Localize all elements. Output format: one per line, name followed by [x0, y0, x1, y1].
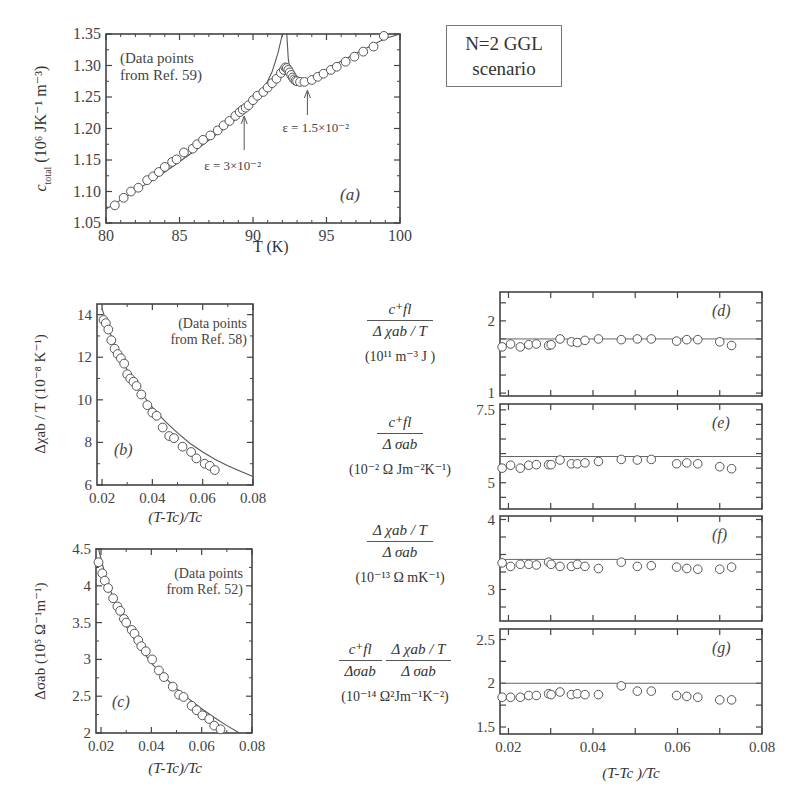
data-point	[693, 693, 702, 702]
data-point	[727, 464, 736, 473]
x-tick-label: 0.02	[88, 738, 114, 754]
y-tick-label: 1.10	[73, 183, 101, 200]
x-tick-label: 0.08	[239, 738, 265, 754]
y-tick-label: 5	[488, 475, 496, 491]
data-point	[179, 693, 188, 702]
panel-d-label: (d)	[712, 302, 731, 320]
data-point	[506, 562, 515, 571]
y-tick-label: 4.5	[72, 541, 91, 557]
y-tick-label: 1	[488, 385, 496, 401]
data-point	[556, 456, 565, 465]
epsilon-annotation-2: ε = 1.5×10⁻²	[282, 120, 349, 135]
data-point	[532, 561, 541, 570]
data-point	[516, 560, 525, 569]
data-point	[715, 338, 724, 347]
scenario-label-line1: N=2 GGL	[447, 31, 561, 56]
data-point	[594, 690, 603, 699]
data-point	[180, 148, 189, 157]
data-point	[359, 47, 368, 56]
x-tick-label: 0.04	[138, 738, 165, 754]
y-tick-label: 1.15	[73, 151, 101, 168]
svg-text:from Ref. 59): from Ref. 59)	[120, 67, 202, 84]
data-point	[594, 457, 603, 466]
data-point	[341, 57, 350, 66]
x-tick-label: 0.02	[89, 490, 115, 506]
y-tick-label: 12	[77, 349, 92, 365]
svg-text:from Ref. 52): from Ref. 52)	[166, 582, 243, 598]
data-point	[672, 459, 681, 468]
data-point	[727, 696, 736, 705]
data-point	[682, 335, 691, 344]
y-tick-label: 4	[84, 578, 92, 594]
panel-a-label: (a)	[340, 185, 360, 204]
x-tick-label: 100	[388, 227, 412, 244]
data-point	[160, 673, 169, 682]
data-point	[556, 688, 565, 697]
y-tick-label: 7.5	[476, 402, 495, 418]
panel-c-label: (c)	[112, 693, 130, 711]
data-point	[210, 466, 219, 475]
data-point	[715, 565, 724, 574]
data-point	[594, 564, 603, 573]
data-point	[498, 343, 507, 352]
y-tick-label: 14	[77, 307, 93, 323]
data-point	[172, 155, 181, 164]
data-point	[350, 52, 359, 61]
data-point	[594, 335, 603, 344]
data-point	[693, 335, 702, 344]
y-tick-label: 2	[488, 675, 496, 691]
data-point	[110, 201, 119, 210]
data-point	[109, 594, 118, 603]
data-point	[547, 560, 556, 569]
data-point	[516, 464, 525, 473]
panel-a: 808590951001.051.101.151.201.251.301.35(…	[73, 25, 412, 256]
data-point	[581, 336, 590, 345]
y-tick-label: 3	[84, 651, 92, 667]
data-point	[120, 359, 129, 368]
data-point	[672, 337, 681, 346]
y-tick-label: 6	[85, 477, 93, 493]
x-tick-label: 95	[319, 227, 335, 244]
panel-a-xlabel: T (K)	[253, 238, 289, 256]
data-point	[556, 562, 565, 571]
x-tick-label: 0.06	[664, 739, 691, 755]
y-tick-label: 1.35	[73, 25, 101, 42]
data-point	[633, 562, 642, 571]
data-point	[532, 691, 541, 700]
data-point	[727, 563, 736, 572]
data-point	[107, 336, 116, 345]
panel-g-ylabel: c⁺flΔσab Δ χab / TΔ σab (10⁻¹⁴ Ω²Jm⁻¹K⁻²…	[305, 640, 485, 705]
panel-b-annotation: (Data points	[178, 316, 247, 332]
data-point	[647, 561, 656, 570]
data-point	[516, 693, 525, 702]
data-point	[498, 693, 507, 702]
data-point	[715, 462, 724, 471]
x-tick-label: 0.02	[495, 739, 521, 755]
data-point	[633, 687, 642, 696]
panel-a-annotation: (Data points	[120, 50, 194, 67]
panel-c-ylabel: Δσab (10⁵ Ω⁻¹m⁻¹)	[31, 551, 49, 731]
data-point	[170, 434, 179, 443]
epsilon-annotation-1: ε = 3×10⁻²	[204, 158, 261, 173]
panel-e: 57.5(e)	[476, 402, 762, 509]
data-point	[547, 690, 556, 699]
data-point	[332, 62, 341, 71]
y-tick-label: 3.5	[72, 615, 91, 631]
data-point	[647, 687, 656, 696]
data-point	[137, 390, 146, 399]
x-tick-label: 85	[172, 227, 188, 244]
x-tick-label: 0.04	[580, 739, 607, 755]
data-point	[647, 335, 656, 344]
data-point	[617, 335, 626, 344]
data-point	[94, 558, 103, 567]
panel-g-label: (g)	[712, 639, 731, 657]
data-point	[116, 606, 125, 615]
data-point	[369, 42, 378, 51]
y-tick-label: 1.20	[73, 120, 101, 137]
data-point	[178, 442, 187, 451]
scenario-label-line2: scenario	[447, 56, 561, 81]
scenario-label-box: N=2 GGL scenario	[446, 25, 562, 87]
panel-f-ylabel: Δ χab / TΔ σab (10⁻¹³ Ω mK⁻¹)	[330, 522, 470, 586]
data-point	[498, 464, 507, 473]
data-point	[682, 564, 691, 573]
